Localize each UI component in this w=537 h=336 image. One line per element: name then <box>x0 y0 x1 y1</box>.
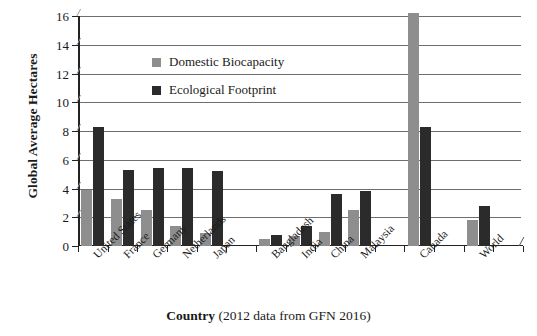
y-tick-label: 8 <box>63 125 70 138</box>
bar-group <box>259 16 282 246</box>
x-axis-title: Country (2012 data from GFN 2016) <box>0 308 537 324</box>
plot-area: 0246810121416 <box>78 16 523 246</box>
y-tick-label: 14 <box>56 38 69 51</box>
bars-layer <box>78 16 523 246</box>
bar-group <box>319 16 342 246</box>
y-tick-label: 12 <box>56 67 69 80</box>
bar-footprint <box>420 127 431 246</box>
legend-label: Ecological Footprint <box>169 82 276 98</box>
legend-label: Domestic Biocapacity <box>169 54 284 70</box>
bar-biocapacity <box>81 190 92 246</box>
bar-group <box>289 16 312 246</box>
y-tick-label: 2 <box>63 211 70 224</box>
y-tick-label: 16 <box>56 10 69 23</box>
y-tick-label: 10 <box>56 96 69 109</box>
legend-swatch-icon <box>152 86 161 95</box>
bar-group <box>408 16 431 246</box>
chart-legend: Domestic BiocapacityEcological Footprint <box>152 52 284 108</box>
x-axis-title-bold: Country <box>166 308 215 323</box>
bar-group <box>81 16 104 246</box>
y-tick-label: 6 <box>63 153 70 166</box>
bar-group <box>141 16 164 246</box>
bar-biocapacity <box>408 13 419 246</box>
bar-footprint <box>360 191 371 246</box>
bar-group <box>170 16 193 246</box>
x-axis-title-note: (2012 data from GFN 2016) <box>215 308 371 323</box>
y-axis-title: Global Average Hectares <box>25 31 41 221</box>
legend-item: Ecological Footprint <box>152 80 284 100</box>
legend-item: Domestic Biocapacity <box>152 52 284 72</box>
bar-biocapacity <box>467 220 478 246</box>
y-tick-label: 0 <box>63 240 70 253</box>
bar-footprint <box>93 127 104 246</box>
bar-group <box>348 16 371 246</box>
bar-footprint <box>153 168 164 246</box>
legend-swatch-icon <box>152 58 161 67</box>
bar-group <box>467 16 490 246</box>
bar-chart-figure: Global Average Hectares 0246810121416 Un… <box>0 0 537 336</box>
bar-biocapacity <box>259 239 270 246</box>
y-tick-label: 4 <box>63 182 70 195</box>
